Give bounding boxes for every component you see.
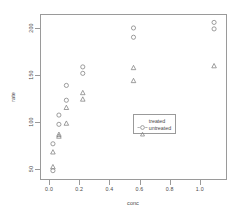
y-tick-label: 150 xyxy=(28,70,34,79)
data-point-treated xyxy=(51,169,55,173)
x-tick xyxy=(79,180,80,185)
legend-item-untreated: untreated xyxy=(137,124,171,131)
data-point-treated xyxy=(81,65,85,69)
y-axis-title: rate xyxy=(10,92,16,102)
data-point-untreated xyxy=(64,121,69,125)
legend-item-treated: treated xyxy=(137,117,171,124)
data-point-treated xyxy=(57,122,61,126)
x-tick xyxy=(200,180,201,185)
y-tick xyxy=(35,169,40,170)
x-tick-label: 0.6 xyxy=(136,186,144,192)
data-point-treated xyxy=(131,26,135,30)
data-point-untreated xyxy=(51,164,56,168)
data-point-untreated xyxy=(51,150,56,154)
y-tick xyxy=(35,75,40,76)
y-tick xyxy=(35,122,40,123)
x-tick-label: 0.8 xyxy=(166,186,174,192)
data-point-treated xyxy=(81,71,85,75)
data-point-treated xyxy=(64,98,68,102)
x-tick-label: 1.0 xyxy=(196,186,204,192)
data-point-treated xyxy=(64,83,68,87)
data-point-untreated xyxy=(81,90,86,94)
scatter-plot-figure: 50100150200 0.00.20.40.60.81.0 rate conc… xyxy=(0,0,244,214)
y-tick-label: 50 xyxy=(28,166,34,172)
x-tick xyxy=(170,180,171,185)
legend-label-treated: treated xyxy=(149,118,166,124)
y-tick xyxy=(35,28,40,29)
x-tick-label: 0.2 xyxy=(75,186,83,192)
x-axis-title: conc xyxy=(127,200,139,206)
x-tick xyxy=(49,180,50,185)
legend-label-untreated: untreated xyxy=(149,125,171,131)
data-point-untreated xyxy=(81,97,86,101)
triangle-marker-icon xyxy=(137,124,148,131)
data-point-untreated xyxy=(131,65,136,69)
data-point-treated xyxy=(131,35,135,39)
data-point-untreated xyxy=(64,105,69,109)
x-tick-label: 0.4 xyxy=(105,186,113,192)
data-point-treated xyxy=(57,113,61,117)
data-point-treated xyxy=(51,142,55,146)
y-tick-label: 100 xyxy=(28,117,34,126)
data-point-untreated xyxy=(131,78,136,82)
y-tick-label: 200 xyxy=(28,23,34,32)
x-tick xyxy=(109,180,110,185)
data-point-treated xyxy=(212,20,216,24)
circle-marker-icon xyxy=(137,117,148,124)
x-tick-label: 0.0 xyxy=(45,186,53,192)
x-tick xyxy=(140,180,141,185)
legend: treated untreated xyxy=(133,114,176,134)
data-points-layer xyxy=(41,15,226,179)
data-point-untreated xyxy=(212,63,217,67)
plot-panel xyxy=(40,14,227,180)
data-point-treated xyxy=(212,27,216,31)
